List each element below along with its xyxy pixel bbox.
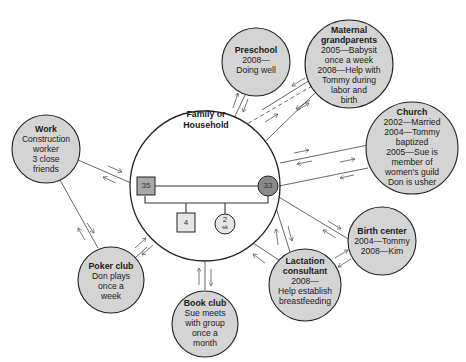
son-age-label: 4 — [177, 218, 195, 227]
mother-age-label: 33 — [258, 181, 278, 190]
household-title: Family or Household — [170, 109, 242, 130]
book-club-node: Book club Sue meets with group once a mo… — [171, 297, 239, 349]
father-age-label: 35 — [137, 181, 155, 190]
work-node: Work Construction worker 3 close friends — [12, 118, 80, 180]
church-node: Church 2002—Married 2004—Tommy baptized … — [368, 106, 456, 188]
poker-club-node: Poker club Don plays once a week — [77, 260, 145, 302]
maternal-grandparents-node: Maternal grandparents 2005—Babysit once … — [305, 24, 393, 106]
preschool-node: Preschool 2008— Doing well — [222, 42, 290, 78]
lactation-consultant-node: Lactation consultant 2008— Help establis… — [268, 254, 342, 308]
infant-age-label: 2 wk — [215, 216, 235, 230]
birth-center-node: Birth center 2004—Tommy 2008—Kim — [348, 224, 416, 258]
